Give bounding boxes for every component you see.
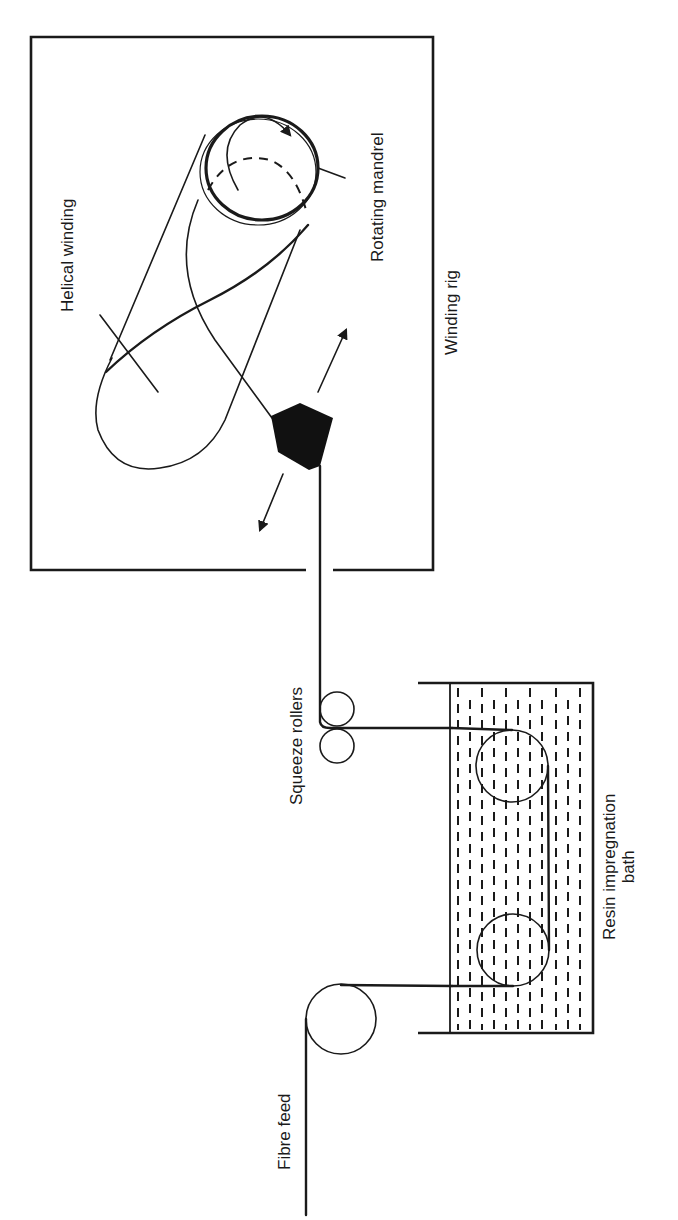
label-resin-bath: Resin impregnation bath xyxy=(600,794,638,940)
rotating-mandrel xyxy=(200,116,345,225)
label-rotating-mandrel: Rotating mandrel xyxy=(368,133,387,262)
label-resin-bath-line2: bath xyxy=(619,794,638,940)
resin-impregnation-bath xyxy=(418,683,593,1033)
label-fibre-feed: Fibre feed xyxy=(275,1093,294,1170)
label-resin-bath-line1: Resin impregnation xyxy=(600,794,619,940)
traversing-guide xyxy=(260,330,346,530)
label-winding-rig: Winding rig xyxy=(442,270,461,355)
fibre-feed xyxy=(306,984,452,1215)
traverse-arrow-down-icon xyxy=(260,474,283,530)
rotation-arrow-icon xyxy=(227,117,290,190)
helical-winding-leader-line xyxy=(100,315,158,392)
label-helical-winding: Helical winding xyxy=(58,199,77,312)
label-squeeze-rollers: Squeeze rollers xyxy=(287,687,306,805)
traverse-arrow-up-icon xyxy=(318,330,346,392)
resin-liquid-hatching xyxy=(458,688,580,1030)
winding-rig-box xyxy=(31,37,433,570)
filament-winding-diagram xyxy=(0,0,678,1220)
mandrel-leader-line xyxy=(318,168,345,178)
